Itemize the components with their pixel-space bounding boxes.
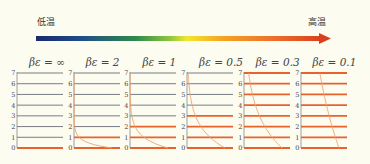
- level-tick-label: 1: [11, 134, 15, 142]
- level-tick-label: 1: [181, 134, 185, 142]
- level-tick-label: 3: [295, 112, 299, 120]
- level-tick-label: 6: [238, 80, 242, 88]
- level-tick-label: 3: [238, 112, 242, 120]
- level-tick-label: 5: [68, 91, 72, 99]
- level-tick-label: 0: [181, 144, 185, 152]
- level-tick-label: 2: [125, 123, 129, 131]
- level-tick-label: 3: [125, 112, 129, 120]
- level-tick-label: 5: [181, 91, 185, 99]
- level-tick-label: 5: [11, 91, 15, 99]
- level-tick-label: 4: [68, 102, 72, 110]
- level-tick-label: 7: [11, 69, 15, 77]
- level-tick-label: 4: [295, 102, 299, 110]
- energy-level-diagram: 01234567: [66, 56, 122, 156]
- level-tick-label: 0: [238, 144, 242, 152]
- high-temperature-label: 高温: [308, 15, 326, 28]
- level-tick-label: 2: [181, 123, 185, 131]
- level-tick-label: 1: [238, 134, 242, 142]
- low-temperature-label: 低温: [37, 15, 55, 28]
- level-tick-label: 1: [68, 134, 72, 142]
- level-tick-label: 7: [181, 69, 185, 77]
- level-tick-label: 2: [238, 123, 242, 131]
- level-tick-label: 0: [68, 144, 72, 152]
- level-tick-label: 2: [68, 123, 72, 131]
- energy-level-diagram: 01234567: [122, 56, 178, 156]
- level-tick-label: 3: [68, 112, 72, 120]
- level-tick-label: 7: [68, 69, 72, 77]
- level-tick-label: 5: [295, 91, 299, 99]
- level-tick-label: 5: [238, 91, 242, 99]
- level-tick-label: 0: [125, 144, 129, 152]
- level-tick-label: 7: [238, 69, 242, 77]
- level-tick-label: 6: [11, 80, 15, 88]
- level-tick-label: 7: [125, 69, 129, 77]
- level-tick-label: 4: [11, 102, 15, 110]
- level-tick-label: 5: [125, 91, 129, 99]
- level-tick-label: 4: [125, 102, 129, 110]
- level-tick-label: 7: [295, 69, 299, 77]
- level-tick-label: 2: [11, 123, 15, 131]
- level-tick-label: 1: [295, 134, 299, 142]
- energy-level-diagram: 01234567: [9, 56, 65, 156]
- level-tick-label: 6: [125, 80, 129, 88]
- level-tick-label: 0: [11, 144, 15, 152]
- energy-level-diagram: 01234567: [179, 56, 235, 156]
- level-tick-label: 6: [295, 80, 299, 88]
- level-tick-label: 4: [181, 102, 185, 110]
- level-tick-label: 0: [295, 144, 299, 152]
- energy-level-diagram: 01234567: [236, 56, 292, 156]
- energy-level-diagram: 01234567: [293, 56, 349, 156]
- temperature-gradient-arrow: [36, 33, 331, 45]
- level-tick-label: 4: [238, 102, 242, 110]
- level-tick-label: 6: [68, 80, 72, 88]
- level-tick-label: 6: [181, 80, 185, 88]
- level-tick-label: 1: [125, 134, 129, 142]
- level-tick-label: 2: [295, 123, 299, 131]
- level-tick-label: 3: [181, 112, 185, 120]
- level-tick-label: 3: [11, 112, 15, 120]
